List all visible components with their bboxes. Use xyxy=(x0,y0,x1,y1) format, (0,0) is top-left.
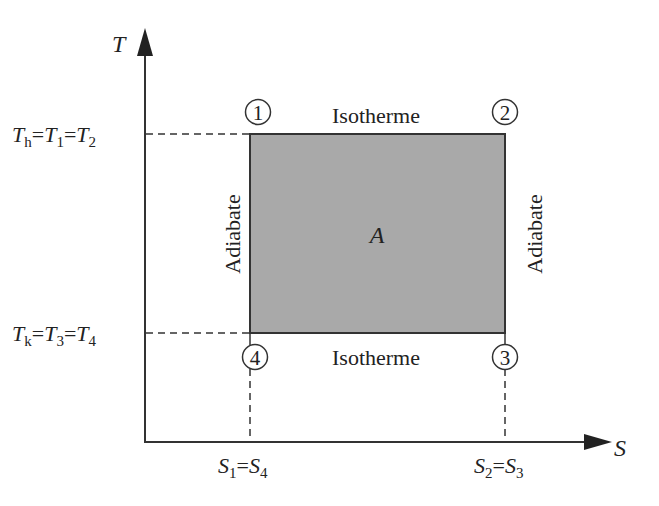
x-axis-arrow-icon xyxy=(584,434,612,450)
state-3-marker: 3 xyxy=(493,345,518,371)
right-edge-label: Adiabate xyxy=(522,194,547,273)
bottom-edge-label: Isotherme xyxy=(332,345,420,370)
y-axis-label: T xyxy=(112,31,127,57)
th-label: Th=T1=T2 xyxy=(12,122,96,150)
state-2-marker: 2 xyxy=(493,100,518,126)
x-axis-label: S xyxy=(614,435,626,461)
s2-label: S2=S3 xyxy=(474,453,523,481)
svg-text:4: 4 xyxy=(250,346,261,370)
tk-label: Tk=T3=T4 xyxy=(12,321,97,349)
svg-text:3: 3 xyxy=(500,346,511,370)
svg-text:2: 2 xyxy=(500,101,511,125)
area-label: A xyxy=(368,222,385,248)
left-edge-label: Adiabate xyxy=(220,194,245,273)
svg-text:1: 1 xyxy=(253,101,264,125)
carnot-ts-diagram: T S Th=T1=T2 Tk=T3=T4 S1=S4 S2=S3 1 2 3 … xyxy=(0,0,659,506)
top-edge-label: Isotherme xyxy=(332,103,420,128)
state-1-marker: 1 xyxy=(246,100,271,126)
y-axis-arrow-icon xyxy=(137,28,153,56)
s1-label: S1=S4 xyxy=(218,453,268,481)
state-4-marker: 4 xyxy=(243,345,268,371)
